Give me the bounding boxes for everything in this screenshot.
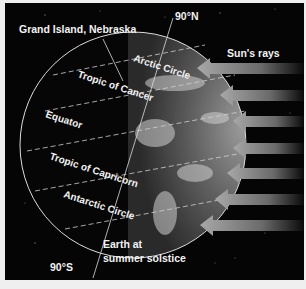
diagram-panel: Grand Island, Nebraska 90°N Sun's rays A… [5, 3, 304, 280]
north-pole-label: 90°N [175, 10, 198, 22]
earth-globe [5, 3, 304, 280]
sun-rays-label: Sun's rays [227, 47, 280, 59]
location-label: Grand Island, Nebraska [19, 23, 136, 35]
south-pole-label: 90°S [50, 261, 73, 273]
title-line-1: Earth at [103, 238, 143, 250]
solstice-diagram: Grand Island, Nebraska 90°N Sun's rays A… [5, 3, 304, 280]
title-line-2: summer solstice [103, 252, 186, 264]
